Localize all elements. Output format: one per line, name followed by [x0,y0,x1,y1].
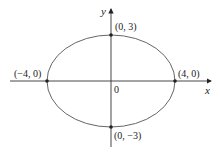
label-right: (4, 0) [178,68,200,80]
label-left: (−4, 0) [14,68,41,80]
y-axis-label: y [100,5,106,17]
label-top: (0, 3) [115,21,137,33]
point-top [109,33,113,37]
label-bottom: (0, −3) [114,130,141,142]
ellipse-diagram: y x 0 (0, 3) (0, −3) (−4, 0) (4, 0) [0,0,221,154]
point-left [45,79,49,83]
point-right [173,79,177,83]
origin-label: 0 [114,84,119,95]
point-bottom [109,125,113,129]
x-axis-label: x [204,84,210,96]
